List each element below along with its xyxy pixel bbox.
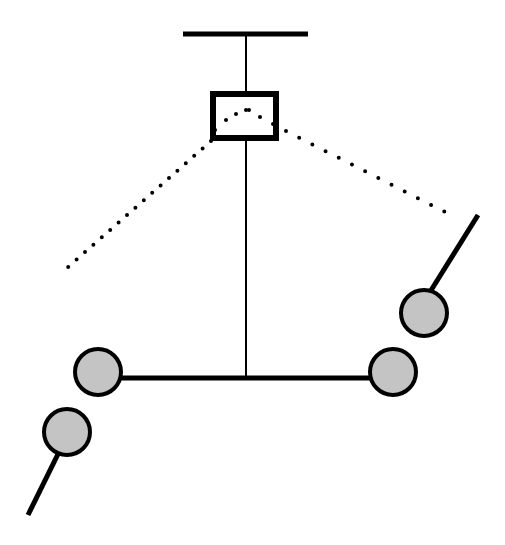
ball-left-outer [44,409,90,455]
ball-right-inner [370,349,416,395]
ball-left-inner [75,349,121,395]
sensor-box [213,94,276,138]
arm-left [28,450,60,515]
arm-right [430,215,478,292]
diagram-canvas [0,0,505,545]
dotted-line-right [286,131,447,213]
ball-right-outer [401,290,447,336]
dotted-line-left [67,141,211,268]
